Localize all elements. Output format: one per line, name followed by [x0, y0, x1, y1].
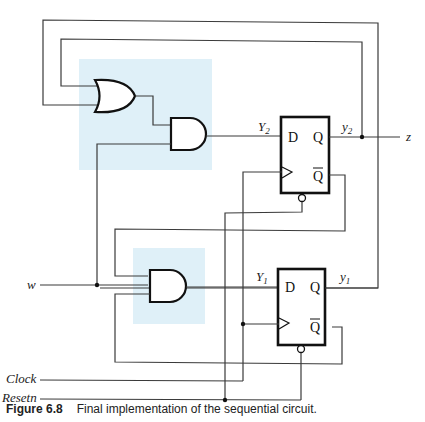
- label-Y2: Y2: [258, 119, 270, 136]
- label-y2: y2: [340, 119, 353, 136]
- ff2-pin-qbar: Q: [313, 169, 323, 184]
- label-z: z: [405, 129, 411, 144]
- label-clock: Clock: [6, 371, 37, 386]
- junction-clock: [241, 322, 245, 326]
- reset-bubble-ff2: [299, 195, 306, 202]
- junction-w: [95, 283, 99, 287]
- reset-bubble-ff1: [298, 346, 305, 353]
- and-gate-y2: [171, 118, 206, 150]
- circuit-diagram: D Q Q Y2 y2 z w D Q Q Y1 y1 Clock Resetn: [0, 0, 425, 422]
- ff1-pin-qbar: Q: [310, 320, 320, 335]
- ff2-pin-q: Q: [313, 130, 323, 145]
- ff2-pin-d: D: [288, 130, 298, 145]
- junction-y2: [360, 135, 364, 139]
- label-Y1: Y1: [256, 269, 268, 286]
- wire-resetn: [40, 399, 301, 400]
- highlight-region-y2-logic: [79, 59, 212, 170]
- label-y1: y1: [338, 269, 350, 286]
- wire-clock: [40, 380, 243, 381]
- figure-number: Figure 6.8: [6, 402, 63, 416]
- figure-caption: Figure 6.8Final implementation of the se…: [6, 402, 317, 416]
- ff1-pin-d: D: [285, 280, 295, 295]
- figure-caption-text: Final implementation of the sequential c…: [77, 402, 317, 416]
- ff1-pin-q: Q: [310, 280, 320, 295]
- and-gate-y1: [150, 270, 186, 302]
- label-w: w: [27, 277, 36, 292]
